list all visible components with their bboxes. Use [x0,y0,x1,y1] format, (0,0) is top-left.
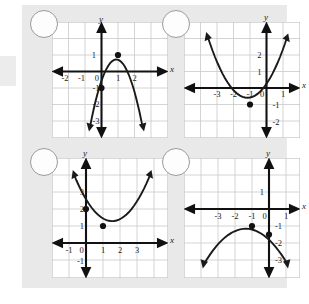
vertex-point-d [249,223,255,229]
svg-text:1: 1 [260,187,264,197]
svg-text:0: 0 [95,73,99,83]
y-axis-letter-b: y [264,12,268,22]
svg-text:3: 3 [135,245,139,255]
graph-panel-d[interactable]: -3 -2 -1 0 1 1 -1 -2 -3 x y [162,148,292,283]
svg-text:1: 1 [257,67,261,77]
svg-text:-1: -1 [273,100,280,110]
svg-text:-2: -2 [231,211,238,221]
vertex-point-b [247,101,253,107]
svg-text:-1: -1 [275,221,282,231]
svg-text:-3: -3 [92,116,99,126]
grid-lines-a [52,22,168,138]
axes-b [186,24,298,136]
svg-text:2: 2 [118,245,122,255]
answer-bubble-d[interactable] [162,148,190,176]
graph-panel-c[interactable]: -1 0 1 2 3 3 2 1 -1 x y [30,148,160,283]
svg-text:0: 0 [79,245,83,255]
x-axis-letter-c: x [170,235,174,245]
svg-text:-1: -1 [92,83,99,93]
vertex-point-c [100,223,106,229]
x-axis-letter-b: x [302,80,306,90]
svg-text:2: 2 [257,50,261,60]
svg-text:1: 1 [92,50,96,60]
svg-text:-1: -1 [248,211,255,221]
vertex-point-a [115,52,121,58]
svg-text:-1: -1 [65,245,72,255]
svg-text:-2: -2 [275,238,282,248]
y-axis-letter-c: y [83,148,87,158]
answer-bubble-c[interactable] [30,148,58,176]
svg-text:-1: -1 [77,256,84,266]
svg-text:3: 3 [80,187,84,197]
svg-text:-3: -3 [275,255,282,265]
svg-text:-2: -2 [61,73,68,83]
y-axis-letter-a: y [99,14,103,24]
svg-text:-2: -2 [92,99,99,109]
svg-text:-3: -3 [213,89,220,99]
svg-text:1: 1 [284,211,288,221]
coordinate-grid-b: -3 -2 -1 0 1 2 1 -1 -2 [184,22,300,138]
axes-a [54,24,166,136]
svg-text:-1: -1 [246,89,253,99]
graph-panel-a[interactable]: -2 -1 0 1 2 1 -1 -2 -3 x y [30,10,160,140]
svg-text:1: 1 [116,73,120,83]
y-axis-letter-d: y [266,148,270,158]
x-axis-letter-a: x [170,64,174,74]
graph-panel-b[interactable]: -3 -2 -1 0 1 2 1 -1 -2 x y [162,10,292,140]
worksheet-root: -2 -1 0 1 2 1 -1 -2 -3 x y [0,0,309,304]
y-intercept-point-d [266,231,272,237]
svg-text:0: 0 [260,89,264,99]
svg-text:1: 1 [101,245,105,255]
svg-text:-3: -3 [214,211,221,221]
svg-text:1: 1 [80,221,84,231]
grid-lines-b [184,22,300,138]
coordinate-grid-d: -3 -2 -1 0 1 1 -1 -2 -3 [184,158,300,278]
svg-text:-1: -1 [78,73,85,83]
graph-card: -2 -1 0 1 2 1 -1 -2 -3 x y [22,5,287,288]
answer-bubble-b[interactable] [162,10,190,38]
svg-text:0: 0 [262,211,266,221]
svg-text:-2: -2 [230,89,237,99]
left-edge-tab [0,56,16,86]
svg-text:1: 1 [281,89,285,99]
x-axis-letter-d: x [302,201,306,211]
coordinate-grid-c: -1 0 1 2 3 3 2 1 -1 [52,158,168,278]
svg-text:-2: -2 [273,117,280,127]
coordinate-grid-a: -2 -1 0 1 2 1 -1 -2 -3 [52,22,168,138]
svg-text:2: 2 [132,73,136,83]
svg-text:2: 2 [80,204,84,214]
answer-bubble-a[interactable] [30,10,58,38]
